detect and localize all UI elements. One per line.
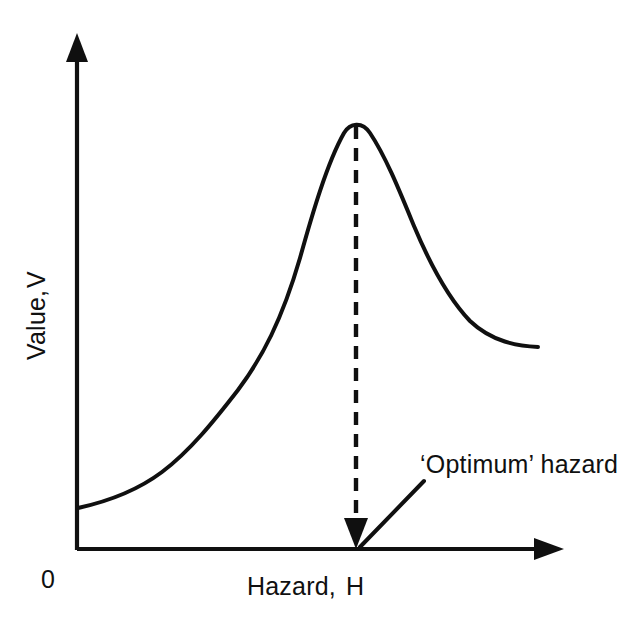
optimum-drop-line-group — [344, 126, 368, 549]
x-axis-label-main: Hazard, — [247, 572, 336, 600]
annotation-leader-line — [360, 481, 424, 547]
y-axis-group — [66, 33, 88, 550]
x-axis-arrowhead-icon — [534, 538, 564, 560]
y-axis-label-symbol: V — [22, 271, 50, 288]
y-axis-label-group: Value, V — [22, 271, 50, 360]
y-axis-arrowhead-icon — [66, 33, 88, 62]
value-hazard-chart: ‘Optimum’ hazard Hazard, H Value, V 0 — [0, 0, 626, 621]
x-axis-label-symbol: H — [346, 572, 364, 600]
annotation-label: ‘Optimum’ hazard — [420, 450, 618, 478]
x-axis-group — [77, 538, 564, 560]
figure-canvas: ‘Optimum’ hazard Hazard, H Value, V 0 — [0, 0, 626, 621]
origin-label: 0 — [41, 565, 55, 593]
x-axis-label-group: Hazard, H — [247, 572, 364, 600]
y-axis-label-main: Value, — [22, 290, 50, 360]
